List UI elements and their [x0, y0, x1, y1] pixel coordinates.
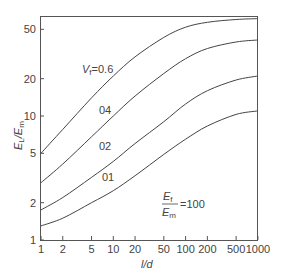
- y-tick-label: 1: [30, 234, 36, 246]
- curve-vf-0-1: [41, 111, 258, 226]
- x-tick-label: 1000: [246, 243, 270, 255]
- svg-text:EL/Em: EL/Em: [12, 121, 26, 150]
- y-tick-label: 20: [24, 73, 36, 85]
- x-tick-label: 1: [38, 243, 44, 255]
- curve-label-01: 01: [102, 171, 114, 183]
- curves: [41, 19, 258, 226]
- curve-label-04: 04: [99, 104, 111, 116]
- y-tick-label: 5: [30, 147, 36, 159]
- x-axis-ticks: 1251020501002005001000: [38, 236, 270, 255]
- y-tick-label: 2: [30, 197, 36, 209]
- x-tick-label: 20: [129, 243, 141, 255]
- x-tick-label: 500: [227, 243, 245, 255]
- curve-vf-0-4: [41, 40, 258, 183]
- curve-label-02: 02: [99, 140, 111, 152]
- x-tick-label: 200: [198, 243, 216, 255]
- y-tick-label: 50: [24, 23, 36, 35]
- curve-vf-0-2: [41, 76, 258, 210]
- x-tick-label: 2: [60, 243, 66, 255]
- svg-text:Em: Em: [162, 206, 176, 220]
- x-tick-label: 5: [88, 243, 94, 255]
- y-axis-label: EL/Em: [12, 121, 26, 150]
- svg-text:Ef: Ef: [163, 190, 173, 204]
- y-tick-label: 10: [24, 110, 36, 122]
- ratio-annotation: Ef Em =100: [162, 190, 205, 220]
- plot-frame: [41, 17, 258, 241]
- svg-text:=100: =100: [180, 198, 205, 210]
- x-tick-label: 50: [158, 243, 170, 255]
- x-axis-label: l/d: [141, 258, 154, 270]
- chart: 1251020501002005001000 125102050 Vf=0.6 …: [0, 0, 289, 274]
- x-tick-label: 10: [107, 243, 119, 255]
- curve-label-vf-06: Vf=0.6: [82, 63, 113, 77]
- x-tick-label: 100: [176, 243, 194, 255]
